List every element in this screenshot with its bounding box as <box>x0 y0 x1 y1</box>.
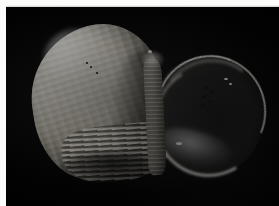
specular-glint <box>148 50 152 53</box>
page-margin-left <box>0 0 6 206</box>
photograph-signature <box>114 173 176 185</box>
scanned-photo-page <box>0 0 279 206</box>
shell-suture-highlight <box>142 51 164 69</box>
aperture-speckle <box>86 62 88 64</box>
aperture-speckle <box>90 66 92 68</box>
specular-glint <box>229 83 232 85</box>
specular-glint <box>224 78 228 80</box>
page-margin-top-shade <box>0 5 279 7</box>
specular-glint <box>176 142 182 145</box>
aperture-speckle <box>96 72 98 74</box>
photograph-plate <box>6 7 279 206</box>
